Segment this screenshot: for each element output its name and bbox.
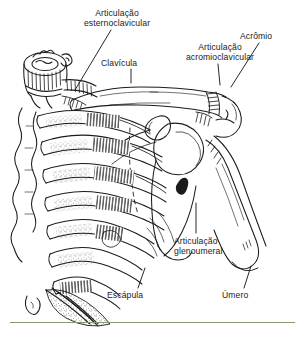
rib-4 bbox=[45, 191, 164, 230]
label-umero: Úmero bbox=[222, 290, 274, 300]
label-line-1: Articulação bbox=[174, 236, 218, 246]
first-rib-sc bbox=[62, 80, 97, 110]
rib-5 bbox=[47, 219, 154, 258]
label-acromio: Acrômio bbox=[240, 31, 296, 41]
acromioclavicular-joint bbox=[196, 92, 220, 126]
label-clavicula: Clavícula bbox=[101, 58, 161, 68]
label-articulacao-acromioclavicular: Articulaçãoacromioclavicular bbox=[168, 42, 272, 62]
label-articulacao-glenoumeral: Articulaçãoglenoumeral bbox=[174, 236, 258, 256]
anatomy-figure: Articulaçãoesternoclavicular Clavícula A… bbox=[0, 0, 305, 338]
label-line-1: Articulação bbox=[95, 8, 139, 18]
label-line-2: glenoumeral bbox=[174, 246, 222, 256]
horizontal-rule bbox=[10, 322, 295, 323]
label-articulacao-esternoclavicular: Articulaçãoesternoclavicular bbox=[63, 8, 171, 28]
sternum-manubrium bbox=[24, 50, 72, 108]
label-line-1: Articulação bbox=[198, 42, 242, 52]
label-line-2: esternoclavicular bbox=[84, 18, 150, 28]
label-escapula: Escápula bbox=[107, 290, 173, 300]
label-line-2: acromioclavicular bbox=[186, 52, 254, 62]
costal-cartilage bbox=[46, 288, 110, 326]
vertebral-column bbox=[11, 108, 40, 315]
